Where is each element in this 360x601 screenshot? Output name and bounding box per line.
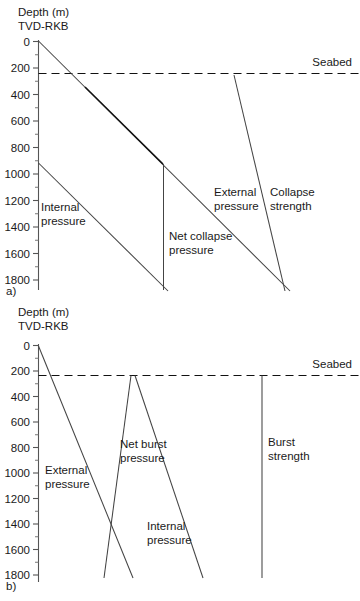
chart-b-tick-label-1000: 1000 — [4, 467, 30, 479]
chart-b-label-net-burst-line1: Net burst — [120, 438, 167, 450]
chart-a-tick-label-1200: 1200 — [4, 195, 30, 207]
chart-a-external-pressure-line-bold-segment — [85, 87, 163, 164]
chart-a-label-external-pressure-line1: External — [214, 186, 256, 198]
chart-a-axis-title-line1: Depth (m) — [18, 6, 69, 18]
chart-b-net-burst-pressure-line — [104, 376, 131, 579]
chart-b-panel-label: b) — [6, 580, 16, 592]
chart-a-tick-label-200: 200 — [11, 62, 30, 74]
chart-b-label-burst-strength-line2: strength — [268, 450, 310, 462]
chart-a-internal-pressure-line — [39, 163, 169, 291]
chart-b-tick-label-800: 800 — [11, 442, 30, 454]
chart-b-tick-label-0: 0 — [24, 340, 30, 352]
chart-a-label-collapse-strength-line1: Collapse — [270, 186, 315, 198]
chart-b-label-net-burst-line2: pressure — [120, 452, 165, 464]
chart-b-label-internal-pressure-line1: Internal — [147, 520, 185, 532]
chart-b-tick-label-400: 400 — [11, 391, 30, 403]
chart-a-axis-title-line2: TVD-RKB — [18, 20, 69, 32]
chart-a-tick-label-600: 600 — [11, 115, 30, 127]
chart-b-internal-pressure-line — [135, 376, 203, 579]
chart-a-tick-label-800: 800 — [11, 142, 30, 154]
chart-b-seabed-label: Seabed — [312, 358, 352, 370]
chart-a-tick-group: 0 200 400 600 800 1000 1200 1400 1600 18… — [4, 36, 38, 287]
chart-a-tick-label-0: 0 — [24, 36, 30, 48]
chart-a-label-net-collapse-line1: Net collapse — [169, 230, 232, 242]
chart-a-collapse-strength-line — [234, 75, 285, 291]
chart-b-label-internal-pressure-line2: pressure — [147, 534, 192, 546]
chart-b-tick-label-1400: 1400 — [4, 518, 30, 530]
chart-a-label-collapse-strength-line2: strength — [270, 200, 312, 212]
chart-b-label-external-pressure-line2: pressure — [45, 478, 90, 490]
chart-a-label-internal-pressure-line2: pressure — [41, 215, 86, 227]
chart-b-tick-label-1200: 1200 — [4, 493, 30, 505]
chart-b-label-external-pressure-line1: External — [45, 464, 87, 476]
chart-b-svg: Depth (m) TVD-RKB 0 200 400 600 800 1000… — [0, 300, 360, 601]
chart-a-tick-label-1000: 1000 — [4, 168, 30, 180]
chart-a-external-pressure-line — [39, 41, 291, 291]
chart-a-tick-label-1600: 1600 — [4, 248, 30, 260]
chart-a-tick-label-400: 400 — [11, 89, 30, 101]
figure-panel-a: Depth (m) TVD-RKB 0 200 400 600 800 1000… — [0, 0, 360, 300]
chart-b-tick-group: 0 200 400 600 800 1000 1200 1400 1600 18… — [4, 340, 38, 582]
chart-a-svg: Depth (m) TVD-RKB 0 200 400 600 800 1000… — [0, 0, 360, 300]
chart-b-external-pressure-line — [39, 346, 134, 578]
chart-a-panel-label: a) — [6, 285, 16, 297]
chart-a-tick-label-1400: 1400 — [4, 221, 30, 233]
chart-b-axis-title-line2: TVD-RKB — [18, 320, 69, 332]
figure-panel-b: Depth (m) TVD-RKB 0 200 400 600 800 1000… — [0, 300, 360, 601]
chart-b-label-burst-strength-line1: Burst — [268, 436, 296, 448]
chart-a-label-net-collapse-line2: pressure — [169, 244, 214, 256]
chart-b-axis-title-line1: Depth (m) — [18, 306, 69, 318]
chart-b-tick-label-600: 600 — [11, 416, 30, 428]
chart-a-seabed-label: Seabed — [312, 56, 352, 68]
chart-b-tick-label-1600: 1600 — [4, 544, 30, 556]
chart-a-label-external-pressure-line2: pressure — [214, 200, 259, 212]
chart-a-label-internal-pressure-line1: Internal — [41, 201, 79, 213]
chart-b-tick-label-200: 200 — [11, 365, 30, 377]
